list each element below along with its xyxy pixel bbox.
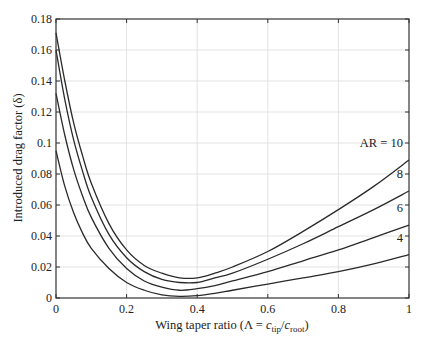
series-annotation: 4: [397, 231, 404, 245]
x-tick-label: 0.4: [190, 302, 205, 316]
curves-layer: [56, 33, 409, 297]
y-tick-label: 0.18: [31, 12, 52, 26]
plot-frame: [56, 19, 409, 298]
y-tick-label: 0: [46, 291, 52, 305]
grid-layer: [56, 19, 409, 298]
x-axis-label-post: ): [305, 318, 309, 332]
x-tick-label: 0.2: [119, 302, 134, 316]
series-line-ar10: [56, 33, 409, 278]
y-tick-label: 0.14: [31, 74, 52, 88]
x-tick-label: 1: [406, 302, 412, 316]
series-annotation: 8: [397, 167, 403, 181]
ticks-layer: [56, 19, 409, 298]
chart: 00.020.040.060.080.10.120.140.160.1800.2…: [0, 0, 426, 351]
x-tick-label: 0: [53, 302, 59, 316]
series-annotation: 6: [397, 201, 403, 215]
y-tick-label: 0.1: [37, 136, 52, 150]
x-tick-label: 0.6: [260, 302, 275, 316]
x-axis-label-sub1: tip: [272, 324, 282, 334]
y-tick-label: 0.08: [31, 167, 52, 181]
series-line-ar6: [56, 93, 409, 290]
y-tick-label: 0.04: [31, 229, 52, 243]
series-annotation: AR = 10: [360, 136, 403, 150]
y-tick-label: 0.16: [31, 43, 52, 57]
y-tick-label: 0.12: [31, 105, 52, 119]
x-axis-label-sub2: root: [290, 324, 305, 334]
y-tick-label: 0.02: [31, 260, 52, 274]
labels-layer: 00.020.040.060.080.10.120.140.160.1800.2…: [31, 12, 412, 316]
x-tick-label: 0.8: [331, 302, 346, 316]
x-axis-label: Wing taper ratio (Λ = ctip/croot): [155, 318, 309, 334]
y-tick-label: 0.06: [31, 198, 52, 212]
y-axis-label: Introduced drag factor (δ): [11, 93, 25, 222]
x-axis-label-pre: Wing taper ratio (Λ =: [155, 318, 266, 332]
